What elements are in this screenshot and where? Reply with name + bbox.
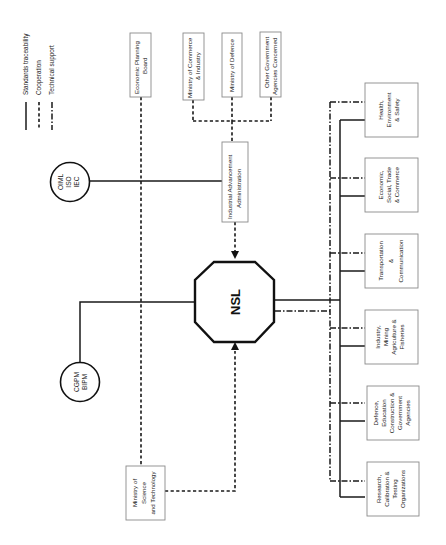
economic-planning-board-line-1: Economic Planning	[133, 40, 140, 94]
svg-text:Industry,: Industry,	[374, 325, 381, 349]
legend: Standards traceability Cooperation Techn…	[22, 33, 56, 130]
sector-box-industry: Industry, Mining Agriculture & Fisheries	[365, 310, 418, 364]
ministry-science-line-2: Science	[140, 481, 147, 504]
svg-text:Fisheries: Fisheries	[398, 324, 405, 349]
iec-label: IEC	[73, 176, 80, 187]
ministry-commerce-line-2: & Industry	[194, 51, 201, 80]
ministry-science-box: Ministry of Science and Technology	[126, 466, 165, 520]
sector-box-health: Health, Environment & Safety	[365, 83, 418, 137]
nsl-octagon: NSL	[195, 262, 274, 342]
svg-text:Construction &: Construction &	[388, 392, 395, 433]
svg-text:& Safety: & Safety	[393, 97, 400, 121]
svg-text:Testing: Testing	[391, 479, 398, 499]
sector-box-transportation: Transportation & Communication	[365, 234, 418, 288]
cgpm-bipm-circle: CGPM BIPM	[61, 363, 100, 402]
svg-text:Agriculture &: Agriculture &	[390, 318, 397, 354]
ministry-defence-box: Ministry of Defence	[222, 33, 242, 97]
svg-text:Transportation: Transportation	[377, 241, 384, 281]
other-agencies-line-2: Agencies Concerned	[271, 37, 278, 95]
legend-label-technical-support: Technical support	[48, 45, 56, 95]
svg-text:Education: Education	[380, 399, 387, 427]
svg-text:Organizations: Organizations	[399, 470, 406, 508]
bipm-label: BIPM	[81, 374, 88, 390]
oiml-iso-iec-circle: OIML ISO IEC	[51, 163, 90, 202]
nsl-organization-diagram: Standards traceability Cooperation Techn…	[0, 0, 446, 545]
svg-text:Communication: Communication	[397, 239, 404, 283]
other-agencies-line-1: Other Government	[263, 36, 270, 88]
nsl-label: NSL	[228, 289, 243, 315]
svg-text:Government: Government	[396, 396, 403, 430]
oiml-label: OIML	[57, 174, 64, 190]
industrial-advancement-box: Industrial Advancement Administration	[222, 142, 248, 222]
svg-text:Environment: Environment	[385, 92, 392, 127]
svg-text:Health,: Health,	[377, 100, 384, 120]
svg-text:Agencies: Agencies	[404, 400, 411, 425]
industrial-advancement-line-1: Industrial Advancement	[226, 154, 233, 219]
sector-box-economic: Economic, Social, Trade & Commerce	[365, 158, 418, 212]
ministry-commerce-line-1: Ministry of Commerce	[186, 37, 193, 98]
svg-text:Defence,: Defence,	[372, 400, 379, 425]
ministry-science-line-1: Ministry of	[131, 479, 138, 507]
cgpm-label: CGPM	[73, 372, 80, 392]
ministry-defence-line-1: Ministry of Defence	[228, 38, 235, 92]
sector-box-defence: Defence, Education Construction & Govern…	[367, 386, 419, 440]
svg-text:& Commerce: & Commerce	[393, 166, 400, 203]
industrial-advancement-line-2: Administration	[235, 168, 242, 208]
other-agencies-box: Other Government Agencies Concerned	[260, 32, 281, 97]
svg-text:Economic,: Economic,	[377, 170, 384, 199]
svg-text:Research,: Research,	[375, 475, 382, 503]
ministry-commerce-box: Ministry of Commerce & Industry	[183, 33, 204, 100]
economic-planning-board-line-2: Board	[141, 57, 148, 74]
economic-planning-board-box: Economic Planning Board	[130, 33, 151, 97]
ministry-science-line-3: and Technology	[149, 470, 156, 514]
svg-text:Calibration &: Calibration &	[383, 470, 390, 506]
sector-box-research: Research, Calibration & Testing Organiza…	[367, 462, 419, 516]
iso-label: ISO	[65, 176, 72, 187]
legend-label-cooperation: Cooperation	[35, 60, 43, 95]
svg-text:Mining: Mining	[382, 327, 389, 346]
legend-label-traceability: Standards traceability	[22, 33, 30, 95]
svg-text:Social, Trade: Social, Trade	[385, 166, 392, 203]
